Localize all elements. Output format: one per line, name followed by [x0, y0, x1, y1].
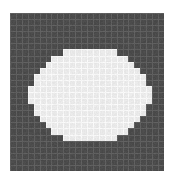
- figure-root: [0, 0, 175, 184]
- pixelated-ellipse-canvas: [10, 13, 164, 171]
